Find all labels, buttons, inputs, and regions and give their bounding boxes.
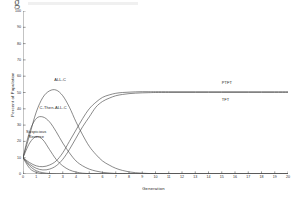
y-tick-label: 70 (17, 58, 21, 62)
x-tick-label: 4 (71, 175, 81, 180)
y-tick-label: 80 (17, 42, 21, 46)
series-line-c-then-all-c (23, 117, 288, 174)
x-tick-label: 5 (84, 175, 94, 180)
x-tick-label: 9 (137, 175, 147, 180)
x-tick-label: 0 (18, 175, 28, 180)
x-axis-tick-labels: 01234567891011121314151617181920 (23, 175, 288, 183)
x-tick-label: 10 (151, 175, 161, 180)
series-line-ptft (23, 92, 288, 167)
annotation-all-c: ALL-C (54, 78, 66, 83)
evolutionary-strategy-chart: g Percent of Population 0102030405060708… (0, 0, 307, 203)
x-tick-label: 17 (243, 175, 253, 180)
x-tick-label: 7 (111, 175, 121, 180)
x-tick-label: 14 (204, 175, 214, 180)
x-tick-label: 8 (124, 175, 134, 180)
x-tick-label: 11 (164, 175, 174, 180)
y-axis-tick-labels: 0102030405060708090100 (0, 11, 21, 174)
annotation-line-2: Reverse (28, 134, 44, 139)
x-tick-label: 18 (257, 175, 267, 180)
x-tick-label: 2 (45, 175, 55, 180)
x-tick-label: 12 (177, 175, 187, 180)
y-tick-label: 40 (17, 107, 21, 111)
y-tick-label: 90 (17, 25, 21, 29)
partial-glyph: g (14, 0, 20, 9)
series-line-all-c (23, 90, 288, 174)
x-tick-label: 13 (190, 175, 200, 180)
x-tick-label: 20 (283, 175, 293, 180)
y-tick-label: 20 (17, 139, 21, 143)
y-tick-label: 30 (17, 123, 21, 127)
annotation-suspicious-reverse: SuspiciousReverse (26, 130, 46, 139)
annotation-tft: TFT (222, 98, 230, 103)
x-tick-label: 15 (217, 175, 227, 180)
x-tick-label: 6 (98, 175, 108, 180)
cropped-header-artifact: g (0, 0, 307, 9)
annotation-c-then-all-c: C-Then-ALL-C (40, 106, 67, 111)
plot-area: ALL-CC-Then-ALL-CSuspiciousReversePTFTTF… (23, 11, 288, 174)
y-tick-label: 100 (15, 9, 21, 13)
annotation-ptft: PTFT (222, 81, 232, 86)
plot-svg (23, 11, 288, 174)
y-tick-label: 10 (17, 156, 21, 160)
y-tick-label: 50 (17, 91, 21, 95)
series-line-suspicious-reverse (23, 136, 288, 174)
x-tick-label: 16 (230, 175, 240, 180)
x-axis-title: Generation (0, 186, 307, 191)
x-tick-label: 3 (58, 175, 68, 180)
y-tick-label: 60 (17, 74, 21, 78)
x-tick-label: 19 (270, 175, 280, 180)
x-tick-label: 1 (31, 175, 41, 180)
partial-text-smear (28, 2, 138, 5)
